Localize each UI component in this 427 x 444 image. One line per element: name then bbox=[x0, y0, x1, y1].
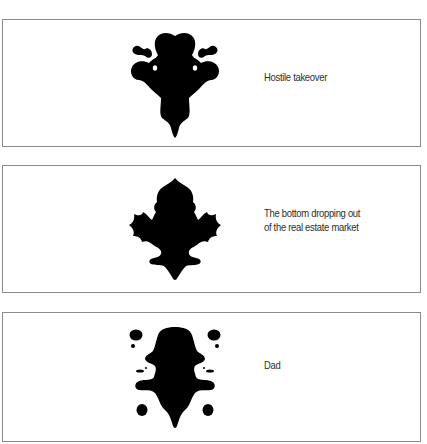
inkblot-1-image bbox=[125, 28, 225, 138]
caption-dad: Dad bbox=[264, 358, 280, 372]
inkblot-3-image bbox=[125, 321, 225, 431]
caption-line: Hostile takeover bbox=[264, 70, 327, 84]
panel-dad: Dad bbox=[2, 312, 421, 442]
caption-line: of the real estate market bbox=[264, 220, 360, 234]
caption-hostile-takeover: Hostile takeover bbox=[264, 70, 327, 84]
caption-real-estate-market: The bottom dropping out of the real esta… bbox=[264, 206, 360, 234]
caption-line: Dad bbox=[264, 358, 280, 372]
inkblot-2-image bbox=[125, 174, 225, 284]
panel-hostile-takeover: Hostile takeover bbox=[2, 19, 421, 147]
caption-line: The bottom dropping out bbox=[264, 206, 360, 220]
panel-real-estate-market: The bottom dropping out of the real esta… bbox=[2, 165, 421, 293]
